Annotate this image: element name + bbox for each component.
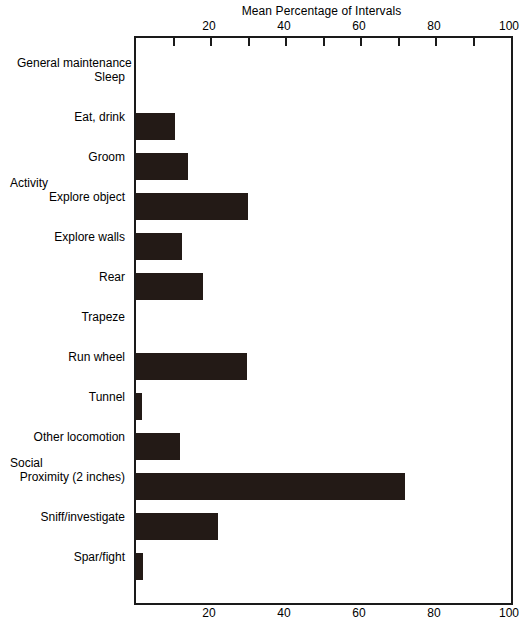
category-group-label: Activity	[10, 176, 48, 190]
plot-area	[134, 36, 513, 605]
category-label: Other locomotion	[34, 430, 125, 444]
x-axis-tick-label: 100	[489, 20, 524, 33]
bar	[136, 393, 142, 420]
category-label: Eat, drink	[74, 110, 125, 124]
bar	[136, 553, 143, 580]
x-axis-tick-mark	[323, 38, 325, 46]
x-axis-tick-label: 80	[414, 20, 454, 33]
x-axis-tick-mark	[210, 38, 212, 46]
bar	[136, 113, 175, 140]
bar	[136, 273, 203, 300]
category-label: Sleep	[94, 70, 125, 84]
x-axis-tick-mark	[173, 38, 175, 46]
category-label: Proximity (2 inches)	[20, 470, 125, 484]
x-axis-tick-label: 20	[189, 20, 229, 33]
bar	[136, 153, 188, 180]
x-axis-tick-mark	[398, 38, 400, 46]
category-label: Groom	[88, 150, 125, 164]
x-axis-tick-label: 100	[489, 607, 524, 620]
x-axis-tick-mark	[473, 38, 475, 46]
bar	[136, 193, 248, 220]
category-group-label: Social	[10, 456, 43, 470]
bar	[136, 433, 180, 460]
x-axis-tick-label: 40	[264, 20, 304, 33]
category-label: Trapeze	[81, 310, 125, 324]
x-axis-tick-mark	[360, 38, 362, 46]
bar	[136, 233, 182, 260]
x-axis-tick-label: 80	[414, 607, 454, 620]
x-axis-tick-label: 60	[339, 607, 379, 620]
x-axis-tick-mark	[248, 38, 250, 46]
chart-title: Mean Percentage of Intervals	[134, 4, 509, 18]
x-axis-tick-label: 40	[264, 607, 304, 620]
category-label: Tunnel	[89, 390, 125, 404]
bar	[136, 513, 218, 540]
x-axis-tick-mark	[435, 38, 437, 46]
category-group-label: General maintenance	[17, 56, 132, 70]
x-axis-tick-label: 60	[339, 20, 379, 33]
category-label: Explore walls	[54, 230, 125, 244]
category-label: Spar/fight	[74, 550, 125, 564]
x-axis-tick-mark	[285, 38, 287, 46]
bar	[136, 353, 247, 380]
category-label: Run wheel	[68, 350, 125, 364]
category-label: Explore object	[49, 190, 125, 204]
category-label: Rear	[99, 270, 125, 284]
bar	[136, 473, 405, 500]
category-label: Sniff/investigate	[41, 510, 126, 524]
x-axis-tick-label: 20	[189, 607, 229, 620]
